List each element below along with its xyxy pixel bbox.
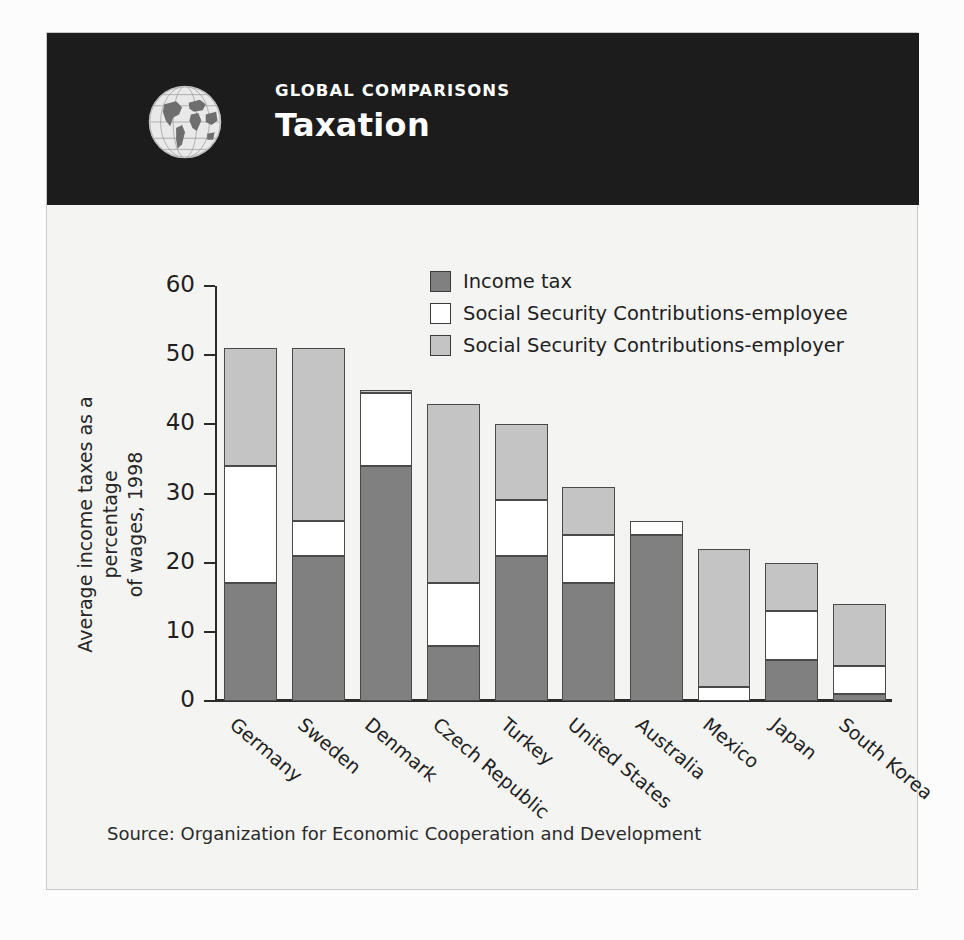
x-axis-label-czech-republic: Czech Republic <box>429 713 554 823</box>
bar-segment <box>495 500 548 555</box>
plot-area: Average income taxes as a percentage of … <box>47 205 919 891</box>
bar-segment <box>698 549 751 687</box>
y-tick-label: 60 <box>135 273 195 296</box>
x-axis-label-germany: Germany <box>226 713 307 786</box>
bar-segment <box>833 694 886 701</box>
bar-segment <box>562 535 615 583</box>
y-tick-label: 40 <box>135 411 195 434</box>
bar-segment <box>292 556 345 701</box>
y-tick-mark <box>204 354 215 356</box>
x-axis-label-south-korea: South Korea <box>834 713 936 804</box>
y-tick-mark <box>204 562 215 564</box>
source-note: Source: Organization for Economic Cooper… <box>107 823 701 844</box>
legend-item[interactable]: Social Security Contributions-employer <box>430 331 848 360</box>
chart-legend: Income taxSocial Security Contributions-… <box>430 267 848 363</box>
bar-segment <box>562 487 615 535</box>
x-axis-label-mexico: Mexico <box>699 713 764 772</box>
bar-segment <box>495 424 548 500</box>
bar-segment <box>224 583 277 701</box>
legend-swatch <box>430 271 451 292</box>
legend-label: Income tax <box>463 272 572 291</box>
x-axis-label-denmark: Denmark <box>361 713 442 786</box>
bar-segment <box>833 666 886 694</box>
bar-segment <box>427 404 480 584</box>
y-axis-title-line1: Average income taxes as a percentage <box>73 360 123 690</box>
y-tick-label: 0 <box>135 688 195 711</box>
bar-segment <box>224 348 277 466</box>
x-axis-label-japan: Japan <box>767 713 822 764</box>
bar-segment <box>360 393 413 466</box>
header-banner: GLOBAL COMPARISONS Taxation <box>47 33 919 205</box>
y-tick-mark <box>204 423 215 425</box>
bar-segment <box>698 687 751 701</box>
bar-denmark[interactable] <box>360 286 413 701</box>
legend-item[interactable]: Income tax <box>430 267 848 296</box>
bar-segment <box>427 583 480 645</box>
y-tick-mark <box>204 285 215 287</box>
y-tick-mark <box>204 631 215 633</box>
y-tick-mark <box>204 493 215 495</box>
header-title-block: GLOBAL COMPARISONS Taxation <box>275 81 510 145</box>
bar-segment <box>630 521 683 535</box>
page-title: Taxation <box>275 105 510 145</box>
y-tick-label: 10 <box>135 619 195 642</box>
x-axis-label-turkey: Turkey <box>496 713 558 770</box>
bar-segment <box>562 583 615 701</box>
globe-icon <box>148 85 222 159</box>
legend-swatch <box>430 335 451 356</box>
bar-segment <box>765 611 818 659</box>
bar-segment <box>360 466 413 701</box>
bar-sweden[interactable] <box>292 286 345 701</box>
y-tick-label: 20 <box>135 550 195 573</box>
bar-germany[interactable] <box>224 286 277 701</box>
bar-segment <box>495 556 548 701</box>
y-tick-label: 50 <box>135 342 195 365</box>
bar-segment <box>427 646 480 701</box>
y-tick-label: 30 <box>135 481 195 504</box>
legend-swatch <box>430 303 451 324</box>
chart-card: GLOBAL COMPARISONS Taxation Average inco… <box>46 32 918 890</box>
bar-segment <box>630 535 683 701</box>
bar-segment <box>224 466 277 584</box>
bar-segment <box>360 390 413 393</box>
bar-segment <box>765 563 818 611</box>
bar-segment <box>292 348 345 521</box>
legend-label: Social Security Contributions-employer <box>463 336 844 355</box>
y-tick-mark <box>204 700 215 702</box>
legend-label: Social Security Contributions-employee <box>463 304 848 323</box>
bar-segment <box>292 521 345 556</box>
legend-item[interactable]: Social Security Contributions-employee <box>430 299 848 328</box>
chart-page: GLOBAL COMPARISONS Taxation Average inco… <box>0 0 964 940</box>
bar-segment <box>833 604 886 666</box>
bar-segment <box>765 660 818 702</box>
header-kicker: GLOBAL COMPARISONS <box>275 81 510 101</box>
